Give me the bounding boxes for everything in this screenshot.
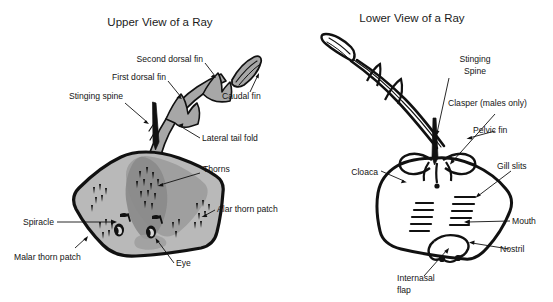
label-clasper: Clasper (males only)	[448, 98, 527, 108]
label-caudal-fin: Caudal fin	[222, 91, 261, 101]
panel-title-upper: Upper View of a Ray	[107, 16, 213, 28]
label-nostril: Nostril	[500, 244, 524, 254]
label-internasal-flap-line1: Internasal	[397, 273, 435, 283]
label-eye: Eye	[176, 258, 191, 268]
label-stinging-spine: Stinging spine	[69, 91, 123, 101]
label-malar-thorn-patch: Malar thorn patch	[14, 252, 81, 262]
canvas-background	[0, 0, 553, 302]
clasper-center-shape	[436, 163, 437, 183]
eye-right	[146, 226, 156, 239]
panel-title-lower: Lower View of a Ray	[359, 12, 465, 24]
label-second-dorsal-fin: Second dorsal fin	[137, 54, 204, 64]
diagram-canvas: Upper View of a Ray	[0, 0, 553, 302]
eye-left	[114, 224, 124, 237]
label-first-dorsal-fin: First dorsal fin	[112, 72, 166, 82]
label-lateral-tail-fold: Lateral tail fold	[202, 133, 258, 143]
ray-anatomy-figure: Upper View of a Ray	[0, 0, 553, 302]
label-cloaca: Cloaca	[351, 167, 378, 177]
label-spiracle: Spiracle	[23, 217, 54, 227]
cloaca-shape	[434, 183, 439, 188]
label-internasal-flap-line2: flap	[397, 285, 411, 295]
label-stinging-spine-lower-line2: Spine	[464, 66, 486, 76]
label-alar-thorn-patch: Alar thorn patch	[217, 204, 278, 214]
label-stinging-spine-lower-line1: Stinging	[459, 54, 490, 64]
label-pelvic-fin: Pelvic fin	[473, 125, 508, 135]
label-gill-slits: Gill slits	[497, 161, 527, 171]
label-thorns: Thorns	[203, 164, 230, 174]
label-mouth: Mouth	[512, 216, 536, 226]
